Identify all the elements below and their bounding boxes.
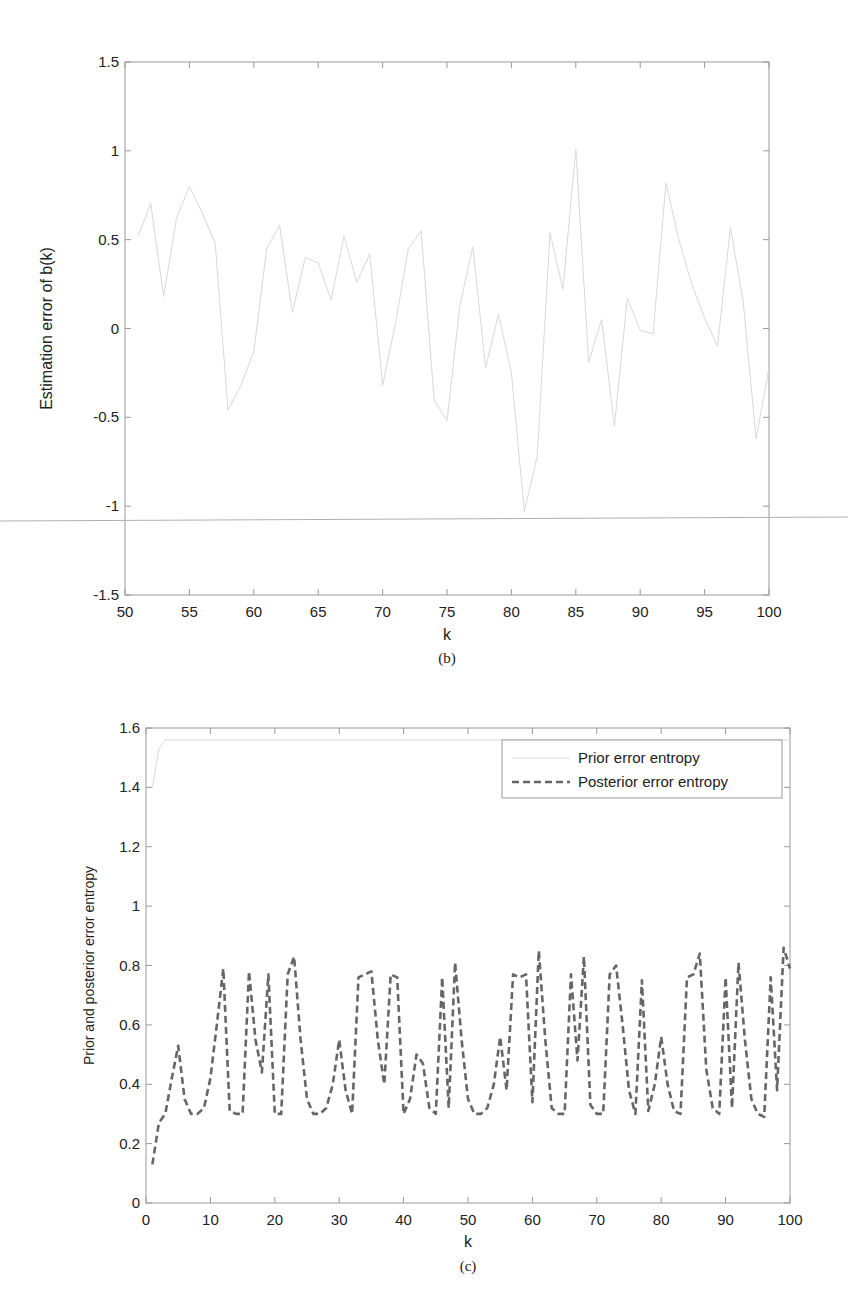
x-axis-title: k — [443, 626, 452, 643]
x-tick-label: 30 — [331, 1211, 348, 1228]
x-tick-label: 90 — [717, 1211, 734, 1228]
x-tick-label: 55 — [181, 603, 198, 620]
x-tick-label: 20 — [266, 1211, 283, 1228]
x-tick-label: 90 — [632, 603, 649, 620]
x-tick-label: 100 — [777, 1211, 802, 1228]
figure-canvas: 50556065707580859095100-1.5-1-0.500.511.… — [0, 0, 848, 1310]
x-tick-label: 100 — [756, 603, 781, 620]
y-tick-label: 0.4 — [119, 1075, 140, 1092]
legend-entry: Posterior error entropy — [578, 773, 729, 790]
x-tick-label: 70 — [588, 1211, 605, 1228]
x-tick-label: 70 — [374, 603, 391, 620]
y-axis-title: Prior and posterior error entropy — [81, 866, 97, 1065]
y-tick-label: 1 — [111, 142, 119, 159]
x-tick-label: 95 — [696, 603, 713, 620]
x-tick-label: 60 — [245, 603, 262, 620]
x-tick-label: 75 — [439, 603, 456, 620]
x-tick-label: 85 — [567, 603, 584, 620]
figure-caption: (c) — [460, 1258, 477, 1275]
x-tick-label: 65 — [310, 603, 327, 620]
y-tick-label: 0.2 — [119, 1135, 140, 1152]
y-tick-label: 1 — [132, 897, 140, 914]
y-tick-label: 1.4 — [119, 778, 140, 795]
y-tick-label: 1.2 — [119, 838, 140, 855]
y-axis-title: Estimation error of b(k) — [38, 247, 55, 410]
y-tick-label: 0.6 — [119, 1016, 140, 1033]
y-tick-label: 0 — [132, 1194, 140, 1211]
x-tick-label: 60 — [524, 1211, 541, 1228]
y-tick-label: 0.5 — [98, 231, 119, 248]
figure-caption: (b) — [438, 650, 456, 667]
chart-estimation-error: 50556065707580859095100-1.5-1-0.500.511.… — [0, 53, 848, 667]
x-tick-label: 50 — [117, 603, 134, 620]
x-tick-label: 80 — [503, 603, 520, 620]
legend: Prior error entropyPosterior error entro… — [502, 740, 782, 798]
legend-entry: Prior error entropy — [578, 749, 700, 766]
y-tick-label: 0.8 — [119, 957, 140, 974]
y-tick-label: -1 — [106, 497, 119, 514]
x-tick-label: 50 — [460, 1211, 477, 1228]
y-tick-label: 0 — [111, 320, 119, 337]
y-tick-label: -0.5 — [93, 408, 119, 425]
chart-error-entropy: 010203040506070809010000.20.40.60.811.21… — [81, 719, 803, 1275]
y-tick-label: 1.6 — [119, 719, 140, 736]
x-tick-label: 0 — [142, 1211, 150, 1228]
y-tick-label: -1.5 — [93, 586, 119, 603]
plot-area-frame — [146, 728, 790, 1203]
x-axis-title: k — [464, 1233, 473, 1250]
y-tick-label: 1.5 — [98, 53, 119, 70]
x-tick-label: 40 — [395, 1211, 412, 1228]
x-tick-label: 10 — [202, 1211, 219, 1228]
x-tick-label: 80 — [653, 1211, 670, 1228]
